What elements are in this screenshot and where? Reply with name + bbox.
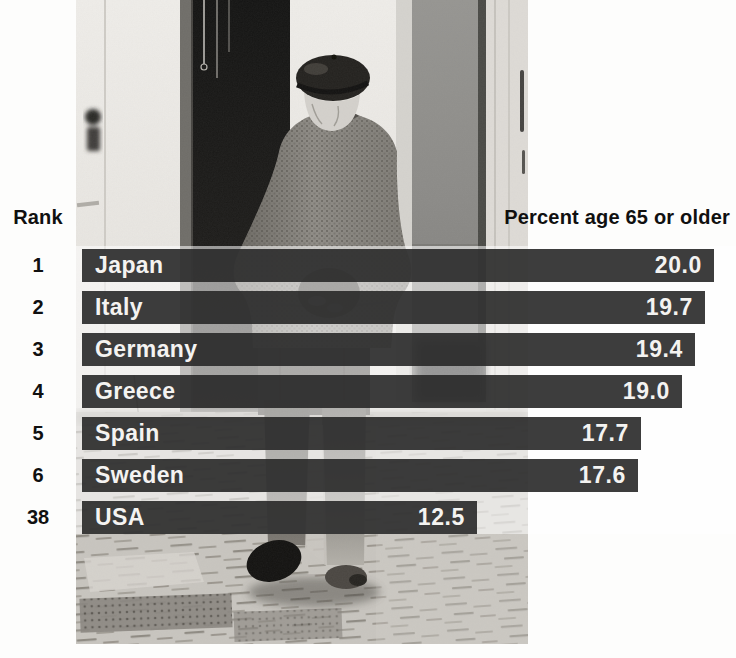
bar-row-spain: 5 Spain 17.7	[0, 417, 736, 450]
value-label: 17.6	[579, 462, 626, 489]
value-label: 19.7	[646, 294, 693, 321]
bar: USA 12.5	[82, 501, 477, 534]
bar-row-usa: 38 USA 12.5	[0, 501, 736, 534]
bar-row-japan: 1 Japan 20.0	[0, 249, 736, 282]
bar-row-sweden: 6 Sweden 17.6	[0, 459, 736, 492]
bar-row-italy: 2 Italy 19.7	[0, 291, 736, 324]
rank-label: 6	[0, 459, 76, 492]
value-label: 17.7	[582, 420, 629, 447]
bar-row-greece: 4 Greece 19.0	[0, 375, 736, 408]
infographic: Rank Percent age 65 or older 1 Japan 20.…	[0, 0, 736, 658]
rank-label: 2	[0, 291, 76, 324]
country-label: Greece	[95, 378, 175, 405]
country-label: USA	[95, 504, 145, 531]
value-label: 20.0	[655, 252, 702, 279]
rank-label: 3	[0, 333, 76, 366]
bar: Spain 17.7	[82, 417, 641, 450]
bar-row-germany: 3 Germany 19.4	[0, 333, 736, 366]
bar: Greece 19.0	[82, 375, 682, 408]
country-label: Sweden	[95, 462, 184, 489]
bar: Japan 20.0	[82, 249, 714, 282]
country-label: Germany	[95, 336, 198, 363]
value-label: 12.5	[418, 504, 465, 531]
rank-label: 4	[0, 375, 76, 408]
value-label: 19.0	[623, 378, 670, 405]
country-label: Italy	[95, 294, 143, 321]
rank-label: 5	[0, 417, 76, 450]
bar: Germany 19.4	[82, 333, 695, 366]
country-label: Spain	[95, 420, 160, 447]
value-label: 19.4	[636, 336, 683, 363]
country-label: Japan	[95, 252, 163, 279]
bar: Italy 19.7	[82, 291, 705, 324]
rank-label: 1	[0, 249, 76, 282]
rank-label: 38	[0, 501, 76, 534]
bar: Sweden 17.6	[82, 459, 638, 492]
bar-chart: 1 Japan 20.0 2 Italy 19.7 3 Germany 19.4…	[0, 0, 736, 658]
